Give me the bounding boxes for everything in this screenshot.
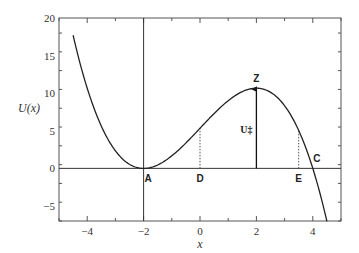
point-labels: ADECZU‡	[145, 73, 321, 184]
y-tick-label: −5	[43, 200, 55, 212]
y-axis-title: U(x)	[18, 101, 40, 115]
label-a: A	[145, 173, 152, 184]
x-tick-label: 0	[197, 225, 203, 237]
plot-frame	[59, 18, 341, 221]
y-tick-label: 20	[44, 12, 56, 24]
potential-energy-chart: −4−2024−505101520 ADECZU‡ xU(x)	[0, 0, 359, 253]
axis-titles: xU(x)	[18, 101, 203, 251]
label-d: D	[196, 173, 203, 184]
potential-curve	[73, 35, 327, 221]
x-axis-title: x	[196, 237, 203, 251]
label-u-barrier: U‡	[240, 124, 252, 135]
x-tick-label: −4	[81, 225, 93, 237]
label-z: Z	[253, 73, 259, 84]
x-tick-label: 4	[310, 225, 316, 237]
label-e: E	[295, 173, 302, 184]
reference-lines	[59, 18, 341, 221]
plot-border	[59, 18, 341, 221]
y-tick-label: 10	[44, 87, 56, 99]
label-c: C	[313, 153, 320, 164]
x-tick-label: −2	[138, 225, 150, 237]
y-tick-label: 0	[50, 162, 56, 174]
y-tick-label: 15	[44, 50, 56, 62]
x-tick-label: 2	[254, 225, 260, 237]
y-tick-label: 5	[50, 125, 56, 137]
